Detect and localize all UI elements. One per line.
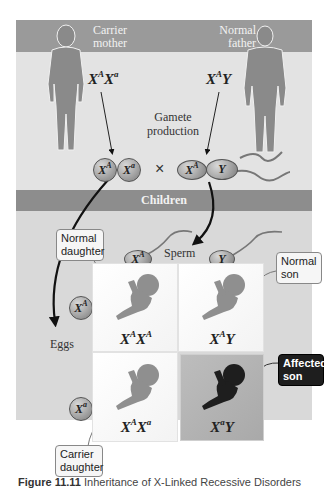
eggs-label: Eggs bbox=[50, 337, 74, 352]
figure-caption: Figure 11.11 Inheritance of X-Linked Rec… bbox=[18, 476, 301, 488]
callout-carrier-daughter: Carrier daughter bbox=[55, 445, 103, 477]
egg-xA: XA bbox=[69, 296, 93, 320]
mother-egg-xa: Xa bbox=[117, 158, 141, 182]
cross-symbol: × bbox=[155, 160, 164, 178]
sperm-label: Sperm bbox=[164, 246, 195, 261]
father-sperm-xA: XA bbox=[177, 160, 207, 180]
sperm-arrow bbox=[196, 182, 213, 242]
callout-normal-daughter: Normal daughter bbox=[56, 229, 104, 261]
father-sperm-tail-2 bbox=[232, 171, 290, 181]
mother-gamete-arrow bbox=[101, 92, 112, 152]
father-sperm-tail-1 bbox=[240, 152, 282, 161]
egg-xa: Xa bbox=[69, 397, 93, 421]
cell-genotype-xAy: XAY bbox=[196, 330, 248, 348]
gamete-production-label: Gamete production bbox=[138, 110, 208, 138]
father-gamete-arrow bbox=[207, 92, 219, 152]
fetus-affected-son-icon bbox=[196, 362, 252, 416]
fetus-normal-daughter-icon bbox=[110, 272, 166, 326]
fetus-normal-son-icon bbox=[196, 272, 252, 326]
fetus-carrier-daughter-icon bbox=[110, 362, 166, 416]
callout-normal-son: Normal son bbox=[276, 252, 322, 284]
sperm-tail-y bbox=[233, 232, 282, 255]
cell-genotype-xay: XaY bbox=[196, 418, 248, 436]
father-sperm-y: Y bbox=[206, 159, 238, 180]
cell-genotype-xAxA: XAXA bbox=[110, 330, 162, 348]
cell-genotype-xAxa: XAXa bbox=[110, 418, 162, 436]
callout-affected-son: Affected son bbox=[278, 354, 324, 386]
mother-egg-xA: XA bbox=[93, 158, 117, 182]
